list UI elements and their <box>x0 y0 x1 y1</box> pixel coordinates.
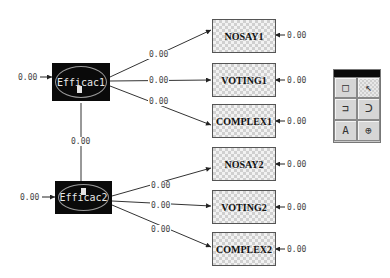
loading-value-voting1: 0.00 <box>148 76 169 85</box>
error-value-voting1: 0.00 <box>286 76 307 85</box>
error-arrows <box>275 35 285 249</box>
selection-handle[interactable] <box>77 86 82 93</box>
tool-palette-titlebar[interactable] <box>334 70 380 77</box>
path-diagram-canvas <box>0 0 390 278</box>
indicator-label: COMPLEX1 <box>216 116 272 127</box>
tool-palette: □ ↖ ⊐ Ↄ A ⊕ <box>333 69 381 143</box>
arrow-tool-button[interactable]: ↖ <box>357 77 380 98</box>
variance-value-efficac1: 0.00 <box>17 73 38 82</box>
curve-icon: Ↄ <box>365 102 373 115</box>
indicator-complex1[interactable]: COMPLEX1 <box>212 104 276 138</box>
selection-handle[interactable] <box>81 188 86 195</box>
indicator-label: NOSAY1 <box>224 31 263 42</box>
rectangle-icon: □ <box>342 81 349 94</box>
indicator-nosay2[interactable]: NOSAY2 <box>212 147 276 181</box>
loading-value-nosay1: 0.00 <box>148 50 169 59</box>
indicator-label: VOTING2 <box>221 202 266 213</box>
indicator-complex2[interactable]: COMPLEX2 <box>212 232 276 266</box>
curve-tool-button[interactable]: Ↄ <box>357 98 380 119</box>
indicator-voting1[interactable]: VOTING1 <box>212 63 276 97</box>
rectangle-tool-button[interactable]: □ <box>334 77 357 98</box>
variance-value-efficac2: 0.00 <box>19 193 40 202</box>
indicator-nosay1[interactable]: NOSAY1 <box>212 19 276 53</box>
indicator-label: COMPLEX2 <box>216 244 272 255</box>
latent-efficac2[interactable]: Efficac2 <box>55 181 112 214</box>
path-tool-button[interactable]: ⊐ <box>334 98 357 119</box>
loading-value-complex2: 0.00 <box>150 225 171 234</box>
text-tool-button[interactable]: A <box>334 120 357 141</box>
indicator-label: VOTING1 <box>221 75 266 86</box>
error-value-complex2: 0.00 <box>286 245 307 254</box>
latent-efficac1[interactable]: Efficac1 <box>52 63 110 101</box>
indicator-label: NOSAY2 <box>224 159 263 170</box>
zoom-icon: ⊕ <box>365 124 372 137</box>
zoom-tool-button[interactable]: ⊕ <box>357 120 380 141</box>
loading-value-nosay2: 0.00 <box>150 181 171 190</box>
covariance-value: 0.00 <box>70 137 91 146</box>
loading-value-voting2: 0.00 <box>150 201 171 210</box>
text-icon: A <box>342 124 349 137</box>
error-value-complex1: 0.00 <box>286 117 307 126</box>
error-value-nosay1: 0.00 <box>286 31 307 40</box>
indicator-voting2[interactable]: VOTING2 <box>212 190 276 224</box>
error-value-voting2: 0.00 <box>286 203 307 212</box>
path-icon: ⊐ <box>342 102 349 115</box>
arrow-icon: ↖ <box>365 81 372 94</box>
loading-value-complex1: 0.00 <box>148 97 169 106</box>
error-value-nosay2: 0.00 <box>286 160 307 169</box>
